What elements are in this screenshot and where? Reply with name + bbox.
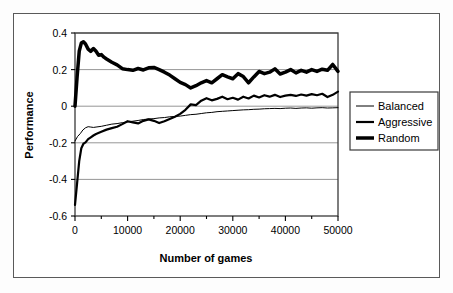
x-tick-label: 40000 <box>271 224 300 236</box>
y-tick-label: 0 <box>61 100 67 112</box>
performance-line-chart: -0.6-0.4-0.200.20.4 01000020000300004000… <box>0 0 453 293</box>
series-line-random <box>75 42 338 106</box>
x-axis-tick-labels: 01000020000300004000050000 <box>72 224 353 236</box>
y-tick-label: -0.2 <box>49 137 67 149</box>
x-tick-label: 0 <box>72 224 78 236</box>
x-tick-label: 20000 <box>166 224 195 236</box>
x-tick-label: 30000 <box>218 224 247 236</box>
x-tick-label: 10000 <box>113 224 142 236</box>
data-series <box>75 42 338 205</box>
y-axis-title: Performance <box>23 91 35 158</box>
legend-label-aggressive: Aggressive <box>378 116 432 128</box>
legend-label-balanced: Balanced <box>378 100 424 112</box>
y-axis-tick-labels: -0.6-0.4-0.200.20.4 <box>49 27 67 222</box>
series-line-balanced <box>75 108 338 141</box>
x-axis-title: Number of games <box>160 252 253 264</box>
y-tick-label: 0.4 <box>52 27 67 39</box>
y-tick-label: -0.4 <box>49 173 67 185</box>
legend-label-random: Random <box>378 132 420 144</box>
x-tick-label: 50000 <box>323 224 352 236</box>
chart-figure: -0.6-0.4-0.200.20.4 01000020000300004000… <box>0 0 453 293</box>
y-tick-label: -0.6 <box>49 210 67 222</box>
plot-frame <box>75 33 338 216</box>
chart-legend[interactable]: BalancedAggressiveRandom <box>350 92 438 150</box>
gridlines <box>75 33 338 179</box>
y-tick-label: 0.2 <box>52 64 67 76</box>
